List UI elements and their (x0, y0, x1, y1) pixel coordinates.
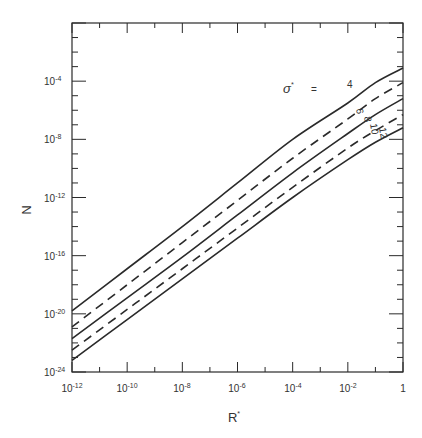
curve-label-8: 8 (362, 115, 374, 123)
chart-canvas: 10-12 10-10 10-8 10-6 10-4 10-2 1 10-24 … (0, 0, 422, 438)
svg-text:=: = (311, 84, 317, 95)
x-tick-label: 10-8 (173, 382, 190, 394)
x-tick-label: 10-2 (339, 382, 356, 394)
curve-sigma-6 (72, 83, 403, 327)
curve-sigma-12 (72, 128, 403, 361)
x-axis-title: R* (228, 410, 240, 425)
x-tick-label: 1 (400, 383, 406, 394)
axis-ticks (72, 23, 403, 372)
legend-title: σ* = (283, 81, 317, 96)
curve-sigma-8 (72, 99, 403, 339)
curve-label-6: 6 (354, 107, 366, 115)
y-tick-label: 10-4 (44, 75, 61, 87)
curve-sigma-10 (72, 115, 403, 351)
plot-frame (72, 23, 403, 372)
svg-text:σ*: σ* (283, 81, 294, 96)
curves (72, 68, 403, 360)
x-tick-label: 10-10 (116, 382, 137, 394)
x-tick-label: 10-4 (284, 382, 301, 394)
curve-label-4: 4 (347, 79, 353, 90)
y-axis-title: N (19, 205, 34, 214)
y-tick-label: 10-16 (44, 250, 65, 262)
curve-label-12: 12 (377, 126, 390, 139)
y-tick-label: 10-20 (44, 308, 65, 320)
y-tick-label: 10-8 (44, 133, 61, 145)
y-tick-label: 10-24 (44, 366, 65, 378)
x-tick-labels: 10-12 10-10 10-8 10-6 10-4 10-2 1 (61, 382, 406, 394)
x-tick-label: 10-12 (61, 382, 82, 394)
y-tick-label: 10-12 (44, 192, 65, 204)
curve-sigma-4 (72, 68, 403, 311)
x-tick-label: 10-6 (228, 382, 245, 394)
y-tick-labels: 10-24 10-20 10-16 10-12 10-8 10-4 (44, 75, 65, 378)
